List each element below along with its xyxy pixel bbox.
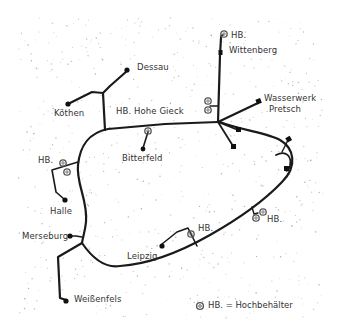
merseburg-dot bbox=[67, 233, 72, 238]
legend-hb-icon bbox=[197, 303, 204, 310]
hb-halle-lower-icon bbox=[64, 169, 70, 175]
label-hohe-gieck: HB. Hohe Gieck bbox=[116, 106, 184, 116]
weissenfels-line bbox=[58, 243, 82, 300]
label-halle-hb: HB. bbox=[38, 155, 53, 165]
label-wittenberg-hb: HB. bbox=[231, 30, 246, 40]
hb-halle-upper-icon bbox=[60, 160, 66, 166]
hb-mid-lower-icon bbox=[205, 107, 211, 113]
label-bitterfeld: Bitterfeld bbox=[122, 153, 163, 163]
east-marker-1 bbox=[285, 136, 292, 143]
bitterfeld-dot bbox=[141, 147, 146, 152]
pipeline-network bbox=[52, 35, 292, 300]
halle-dot bbox=[62, 197, 67, 202]
label-pretsch: Pretsch bbox=[269, 104, 301, 114]
east-marker-2 bbox=[284, 166, 289, 171]
pretsch-line bbox=[218, 103, 258, 122]
legend-text: HB. = Hochbehälter bbox=[208, 300, 293, 310]
dessau-dot bbox=[124, 67, 129, 72]
dessau-branch bbox=[103, 71, 127, 130]
label-weissenfels: Weißenfels bbox=[74, 294, 121, 304]
halle-hb-branch bbox=[52, 162, 78, 199]
label-leipzig: Leipzig bbox=[127, 251, 158, 261]
spur-2-marker bbox=[231, 144, 236, 149]
weissenfels-dot bbox=[63, 298, 68, 303]
city-markers bbox=[62, 67, 164, 303]
hb-east-lower-icon bbox=[253, 215, 259, 221]
wittenberg-marker bbox=[219, 50, 223, 55]
label-wittenberg: Wittenberg bbox=[229, 45, 277, 55]
water-pipeline-map bbox=[0, 0, 337, 332]
koethen-dot bbox=[65, 101, 70, 106]
hb-east-upper-icon bbox=[260, 209, 266, 215]
label-east-hb: HB. bbox=[267, 214, 282, 224]
east-hb-stub bbox=[252, 207, 258, 214]
label-leipzig-hb: HB. bbox=[198, 223, 213, 233]
stipple-texture bbox=[18, 17, 323, 318]
hb-mid-upper-icon bbox=[205, 98, 211, 104]
label-dessau: Dessau bbox=[137, 62, 169, 72]
label-wasserwerk: Wasserwerk bbox=[264, 93, 316, 103]
hochbehaelter-markers bbox=[60, 31, 266, 310]
label-halle: Halle bbox=[50, 206, 72, 216]
leipzig-dot bbox=[159, 243, 164, 248]
label-koethen: Köthen bbox=[54, 108, 84, 118]
hb-wittenberg-icon bbox=[221, 31, 227, 37]
main-loop-pipeline bbox=[78, 122, 293, 266]
label-merseburg: Merseburg bbox=[22, 231, 68, 241]
koethen-branch bbox=[68, 92, 103, 104]
spur-1-marker bbox=[236, 127, 241, 132]
